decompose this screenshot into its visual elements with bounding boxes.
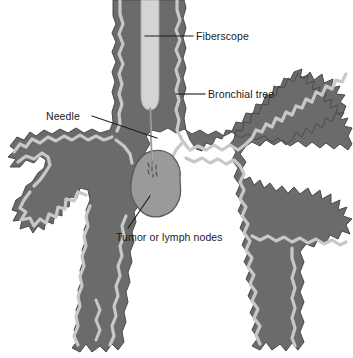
label-bronchial-tree: Bronchial tree [208,88,274,100]
bronchoscopy-diagram: Fiberscope Bronchial tree Needle Tumor o… [0,0,353,358]
tumor-mass-shape [131,150,181,216]
label-needle: Needle [46,110,80,122]
label-tumor-or-lymph-nodes: Tumor or lymph nodes [116,231,223,243]
fiberscope-group [141,0,159,110]
label-fiberscope: Fiberscope [196,30,249,42]
anatomy-illustration [0,0,353,358]
tumor-mass-group [131,150,181,216]
fiberscope-tube [141,0,159,110]
